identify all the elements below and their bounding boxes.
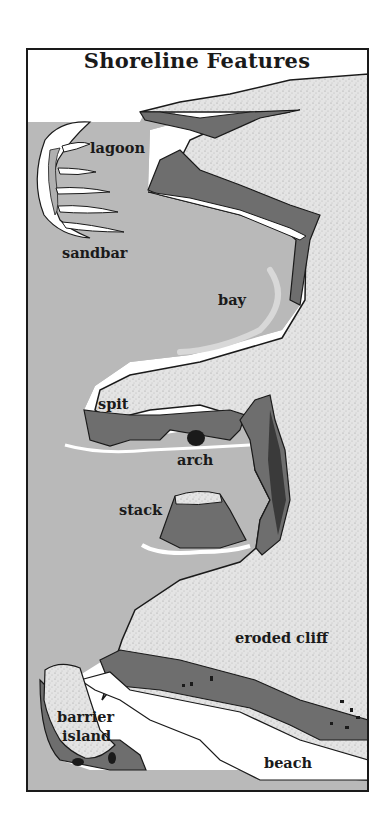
label-barrier-island-line1: barrier bbox=[57, 709, 114, 724]
label-lagoon: lagoon bbox=[90, 140, 145, 155]
label-spit: spit bbox=[98, 396, 129, 411]
label-barrier-island-line2: island bbox=[62, 728, 111, 743]
label-beach: beach bbox=[264, 755, 312, 770]
shoreline-illustration bbox=[0, 0, 389, 824]
diagram-title: Shoreline Features bbox=[27, 48, 367, 73]
shoreline-diagram: Shoreline Features lagoon sandbar bay sp… bbox=[0, 0, 389, 824]
barrier-island-rock bbox=[72, 758, 84, 766]
barrier-island-rock bbox=[108, 752, 116, 764]
label-eroded-cliff: eroded cliff bbox=[235, 630, 328, 645]
label-bay: bay bbox=[218, 292, 246, 307]
label-stack: stack bbox=[119, 502, 162, 517]
stack-top bbox=[175, 491, 222, 504]
label-arch: arch bbox=[177, 452, 213, 467]
label-sandbar: sandbar bbox=[62, 245, 127, 260]
arch-opening bbox=[187, 430, 205, 446]
